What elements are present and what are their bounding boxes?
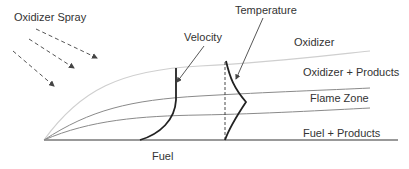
label-oxidizer-products: Oxidizer + Products — [303, 67, 399, 78]
label-fuel-products: Fuel + Products — [303, 128, 380, 139]
label-flame-zone: Flame Zone — [310, 93, 369, 104]
label-fuel: Fuel — [152, 151, 173, 162]
diagram-canvas — [0, 0, 409, 169]
label-oxidizer: Oxidizer — [294, 37, 334, 48]
oxidizer-spray-arrows — [13, 29, 97, 86]
velocity-profile — [140, 68, 176, 140]
temperature-profile — [225, 61, 246, 140]
velocity-pointer — [177, 46, 204, 82]
label-oxidizer-spray: Oxidizer Spray — [14, 12, 86, 23]
label-velocity: Velocity — [184, 32, 222, 43]
label-temperature: Temperature — [235, 5, 297, 16]
temperature-pointer — [236, 18, 263, 79]
